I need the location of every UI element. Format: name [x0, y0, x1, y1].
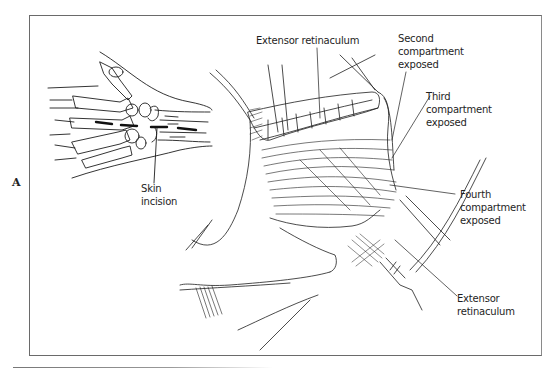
- label-line: exposed: [426, 116, 492, 129]
- label-line: exposed: [460, 214, 526, 227]
- caption-divider: [13, 367, 273, 368]
- label-line: Second: [398, 32, 464, 45]
- label-line: Third: [426, 90, 492, 103]
- label-line: Skin: [141, 182, 177, 195]
- label-second-compartment: Second compartment exposed: [398, 32, 464, 71]
- label-line: incision: [141, 195, 177, 208]
- label-line: retinaculum: [457, 305, 515, 318]
- hand-skeleton-inset: [48, 52, 212, 183]
- label-line: exposed: [398, 58, 464, 71]
- label-line: compartment: [460, 201, 526, 214]
- label-extensor-retinaculum-bottom: Extensor retinaculum: [457, 292, 515, 318]
- label-extensor-retinaculum-top: Extensor retinaculum: [256, 34, 359, 47]
- label-line: compartment: [398, 45, 464, 58]
- label-fourth-compartment: Fourth compartment exposed: [460, 188, 526, 227]
- label-line: Extensor: [457, 292, 515, 305]
- label-line: compartment: [426, 103, 492, 116]
- label-line: Fourth: [460, 188, 526, 201]
- label-skin-incision: Skin incision: [141, 182, 177, 208]
- label-third-compartment: Third compartment exposed: [426, 90, 492, 129]
- label-line: Extensor retinaculum: [256, 34, 359, 47]
